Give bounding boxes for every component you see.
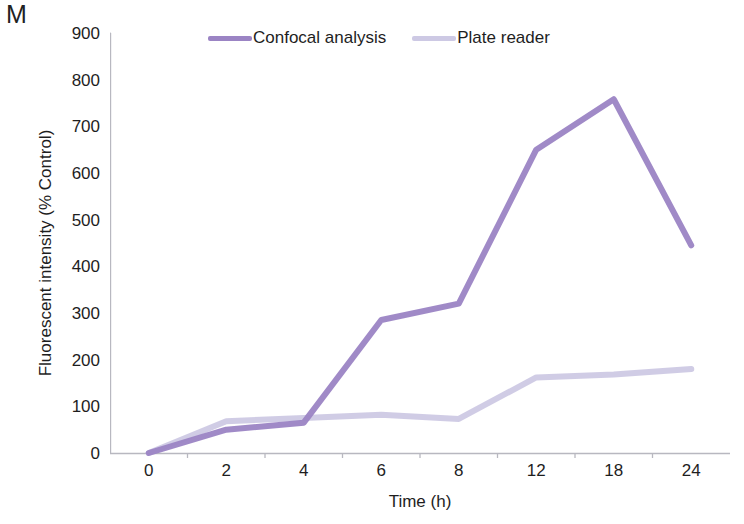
y-tick-label: 800 xyxy=(48,72,100,89)
x-tick-label: 18 xyxy=(584,462,644,479)
legend-entry: Plate reader xyxy=(412,28,550,48)
y-tick-label: 400 xyxy=(48,258,100,275)
plot-svg xyxy=(110,28,730,458)
y-tick-label: 0 xyxy=(48,445,100,462)
y-tick-label: 900 xyxy=(48,25,100,42)
x-tick-label: 6 xyxy=(351,462,411,479)
x-tick-label: 24 xyxy=(661,462,721,479)
x-axis-title: Time (h) xyxy=(110,492,730,512)
x-tick-label: 8 xyxy=(429,462,489,479)
y-tick-label: 600 xyxy=(48,165,100,182)
x-axis-tick-labels: 02468121824 xyxy=(110,462,730,486)
y-tick-label: 100 xyxy=(48,398,100,415)
y-tick-label: 200 xyxy=(48,352,100,369)
legend-swatch-icon xyxy=(208,36,252,41)
legend-entry: Confocal analysis xyxy=(208,28,386,48)
legend-swatch-icon xyxy=(412,36,456,41)
legend-label: Plate reader xyxy=(457,28,550,48)
series-line xyxy=(149,99,692,453)
plot-area xyxy=(110,28,730,458)
y-axis-tick-labels: 0100200300400500600700800900 xyxy=(38,28,100,458)
x-tick-label: 4 xyxy=(274,462,334,479)
y-tick-label: 300 xyxy=(48,305,100,322)
x-tick-label: 12 xyxy=(506,462,566,479)
y-tick-label: 700 xyxy=(48,118,100,135)
panel-label: M xyxy=(6,2,27,27)
y-tick-label: 500 xyxy=(48,212,100,229)
chart-legend: Confocal analysisPlate reader xyxy=(208,28,550,48)
legend-label: Confocal analysis xyxy=(253,28,386,48)
series-line xyxy=(149,369,692,453)
chart-figure: M Fluorescent intensity (% Control) 0100… xyxy=(0,0,744,524)
x-tick-label: 2 xyxy=(196,462,256,479)
x-tick-label: 0 xyxy=(119,462,179,479)
